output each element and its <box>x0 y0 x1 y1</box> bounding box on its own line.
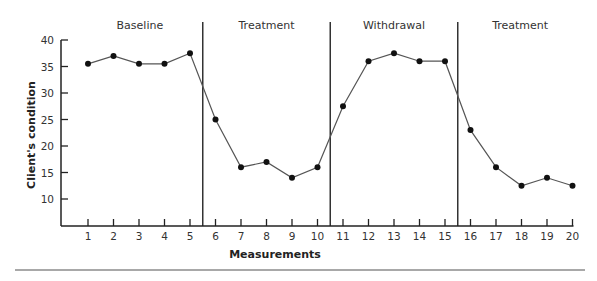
x-tick-label: 19 <box>540 230 553 242</box>
phase-label: Treatment <box>238 19 296 32</box>
x-tick-label: 11 <box>336 230 349 242</box>
data-point-marker <box>238 164 244 170</box>
phase-label: Treatment <box>491 19 549 32</box>
y-tick-label: 20 <box>41 140 54 152</box>
x-tick-label: 2 <box>110 230 117 242</box>
x-tick-label: 17 <box>489 230 502 242</box>
x-tick-label: 9 <box>289 230 296 242</box>
data-point-marker <box>213 117 219 123</box>
y-tick-label: 35 <box>41 61 54 73</box>
y-axis-title: Client's condition <box>25 81 38 189</box>
data-point-marker <box>315 164 321 170</box>
data-point-marker <box>289 175 295 181</box>
bottom-divider-rule <box>15 269 585 271</box>
phase-dividers <box>203 22 458 226</box>
x-axis-title: Measurements <box>229 248 321 261</box>
data-point-marker <box>111 53 117 59</box>
data-point-marker <box>519 183 525 189</box>
x-tick-label: 6 <box>212 230 219 242</box>
y-tick-label: 15 <box>41 167 54 179</box>
x-tick-label: 14 <box>413 230 427 242</box>
x-tick-label: 1 <box>85 230 92 242</box>
data-point-marker <box>417 58 423 64</box>
data-point-marker <box>570 183 576 189</box>
x-tick-label: 4 <box>161 230 168 242</box>
data-point-marker <box>366 58 372 64</box>
x-axis-ticks: 1234567891011121314151617181920 <box>85 219 580 242</box>
x-tick-label: 20 <box>566 230 579 242</box>
x-tick-label: 7 <box>238 230 245 242</box>
data-point-marker <box>544 175 550 181</box>
phase-label: Baseline <box>117 19 164 32</box>
data-point-marker <box>85 61 91 67</box>
y-tick-label: 40 <box>41 34 54 46</box>
x-tick-label: 13 <box>387 230 400 242</box>
data-point-marker <box>187 50 193 56</box>
data-point-marker <box>264 159 270 165</box>
data-point-marker <box>493 164 499 170</box>
x-tick-label: 16 <box>464 230 478 242</box>
x-tick-label: 8 <box>263 230 270 242</box>
axes <box>61 40 574 226</box>
x-tick-label: 3 <box>136 230 143 242</box>
y-tick-label: 30 <box>41 87 54 99</box>
x-tick-label: 10 <box>311 230 324 242</box>
x-tick-label: 5 <box>187 230 194 242</box>
ab-design-line-chart: BaselineTreatmentWithdrawalTreatment 101… <box>0 0 597 281</box>
data-point-marker <box>391 50 397 56</box>
x-tick-label: 15 <box>438 230 451 242</box>
data-point-marker <box>136 61 142 67</box>
data-point-marker <box>162 61 168 67</box>
phase-labels: BaselineTreatmentWithdrawalTreatment <box>117 19 549 32</box>
y-axis-ticks: 10152025303540 <box>41 34 68 205</box>
x-tick-label: 18 <box>515 230 528 242</box>
y-tick-label: 10 <box>41 193 54 205</box>
data-point-marker <box>340 103 346 109</box>
data-point-marker <box>468 127 474 133</box>
x-tick-label: 12 <box>362 230 375 242</box>
data-point-marker <box>442 58 448 64</box>
phase-label: Withdrawal <box>363 19 425 32</box>
y-tick-label: 25 <box>41 114 54 126</box>
